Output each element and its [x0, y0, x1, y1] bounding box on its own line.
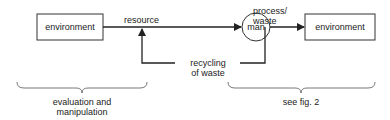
- resource-label: resource: [124, 15, 159, 25]
- recycling-label: recycling: [176, 58, 240, 68]
- process-label: process/: [253, 6, 287, 16]
- manipulation-label: manipulation: [32, 107, 132, 117]
- waste-label: waste: [253, 16, 277, 26]
- environment-right-label: environment: [305, 22, 375, 32]
- see-fig-label: see fig. 2: [251, 97, 351, 107]
- environment-left-label: environment: [37, 22, 103, 32]
- of-waste-label: of waste: [176, 68, 240, 78]
- evaluation-label: evaluation and: [32, 97, 132, 107]
